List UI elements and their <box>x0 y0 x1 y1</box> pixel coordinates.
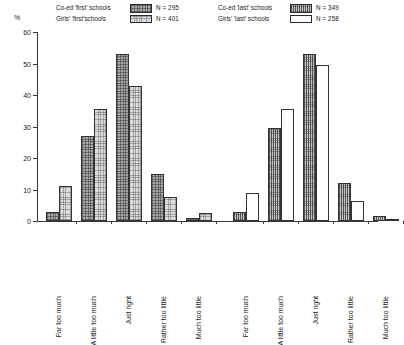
bar <box>81 136 94 221</box>
x-axis-tick <box>181 221 182 224</box>
y-axis-unit-label: % <box>14 14 20 21</box>
bar <box>164 197 177 221</box>
bar <box>199 213 212 221</box>
legend-label-coed-last: Co-ed 'last' schools <box>218 3 290 14</box>
legend-label-girls-last: Girls' 'last' schools <box>218 14 290 25</box>
bar <box>246 193 259 221</box>
bar <box>94 109 107 221</box>
bar <box>338 183 351 221</box>
legend-item: Girls' 'first'schools N = 401 <box>56 14 179 25</box>
x-axis-tick <box>146 221 147 224</box>
legend-n-coed-first: N = 295 <box>156 3 179 14</box>
bar <box>351 201 364 221</box>
bar <box>373 216 386 221</box>
bar <box>281 109 294 221</box>
bar <box>268 128 281 221</box>
coed-last-swatch <box>290 4 312 13</box>
chart-plot-area: 0102030405060 Far too muchA little too m… <box>0 28 383 299</box>
legend-label-girls-first: Girls' 'first'schools <box>56 14 130 25</box>
bar <box>129 86 142 221</box>
girls-first-swatch <box>130 15 152 24</box>
legend-n-girls-first: N = 401 <box>156 14 179 25</box>
legend-last-schools: Co-ed 'last' schools N = 349 Girls' 'las… <box>218 3 339 24</box>
legend-zone: Co-ed 'first' schools N = 295 Girls' 'fi… <box>0 2 383 28</box>
legend-item: Co-ed 'first' schools N = 295 <box>56 3 179 14</box>
legend-n-girls-last: N = 258 <box>316 14 339 25</box>
x-axis-tick <box>111 221 112 224</box>
x-axis-tick <box>216 221 217 224</box>
bar <box>233 212 246 221</box>
x-axis-tick <box>263 221 264 224</box>
legend-item: Girls' 'last' schools N = 258 <box>218 14 339 25</box>
x-axis-category-label: Just right <box>312 296 319 324</box>
legend-n-coed-last: N = 349 <box>316 3 339 14</box>
x-axis-category-label: Just right <box>125 296 132 324</box>
bar <box>151 174 164 221</box>
x-axis-category-label: Much too little <box>195 296 202 339</box>
bar <box>59 186 72 221</box>
legend-first-schools: Co-ed 'first' schools N = 295 Girls' 'fi… <box>56 3 179 24</box>
x-axis-category-label: Rather too little <box>160 296 167 343</box>
x-axis-category-label: Far too much <box>242 296 249 337</box>
x-axis-tick <box>76 221 77 224</box>
bar <box>386 219 399 221</box>
x-axis-category-label: Rather too little <box>347 296 354 343</box>
x-axis-category-label: Much too little <box>382 296 389 339</box>
x-axis-line <box>37 221 378 222</box>
girls-last-swatch <box>290 15 312 24</box>
x-axis-tick <box>333 221 334 224</box>
bar <box>186 218 199 221</box>
category-labels: Far too muchA little too muchJust rightR… <box>0 224 383 299</box>
coed-first-swatch <box>130 4 152 13</box>
bars-layer <box>0 28 383 221</box>
bar <box>46 212 59 221</box>
bar <box>116 54 129 221</box>
x-axis-tick <box>368 221 369 224</box>
x-axis-category-label: A little too much <box>90 296 97 345</box>
legend-label-coed-first: Co-ed 'first' schools <box>56 3 130 14</box>
x-axis-tick <box>298 221 299 224</box>
x-axis-category-label: Far too much <box>55 296 62 337</box>
legend-item: Co-ed 'last' schools N = 349 <box>218 3 339 14</box>
x-axis-tick <box>403 221 404 224</box>
bar <box>303 54 316 221</box>
x-axis-category-label: A little too much <box>277 296 284 345</box>
bar <box>316 65 329 221</box>
